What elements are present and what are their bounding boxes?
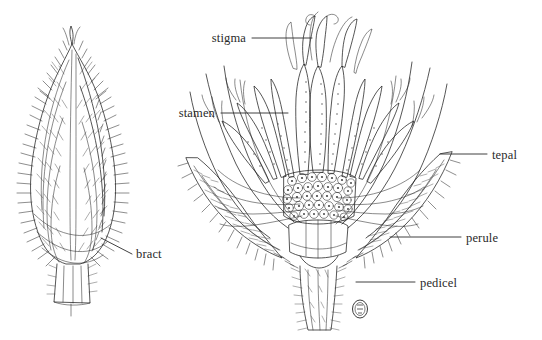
label-text-stamen: stamen [179,106,216,120]
plate-background [0,0,542,340]
illustration-plate: stigma stamen tepal perule pedicel bract [0,0,542,340]
label-text-stigma: stigma [212,31,247,45]
label-text-bract: bract [136,247,162,261]
label-text-tepal: tepal [492,148,517,162]
label-text-pedicel: pedicel [420,276,458,290]
label-text-perule: perule [466,231,498,245]
botanical-illustration-svg: stigma stamen tepal perule pedicel bract [0,0,542,340]
artist-monogram-icon [353,300,368,318]
